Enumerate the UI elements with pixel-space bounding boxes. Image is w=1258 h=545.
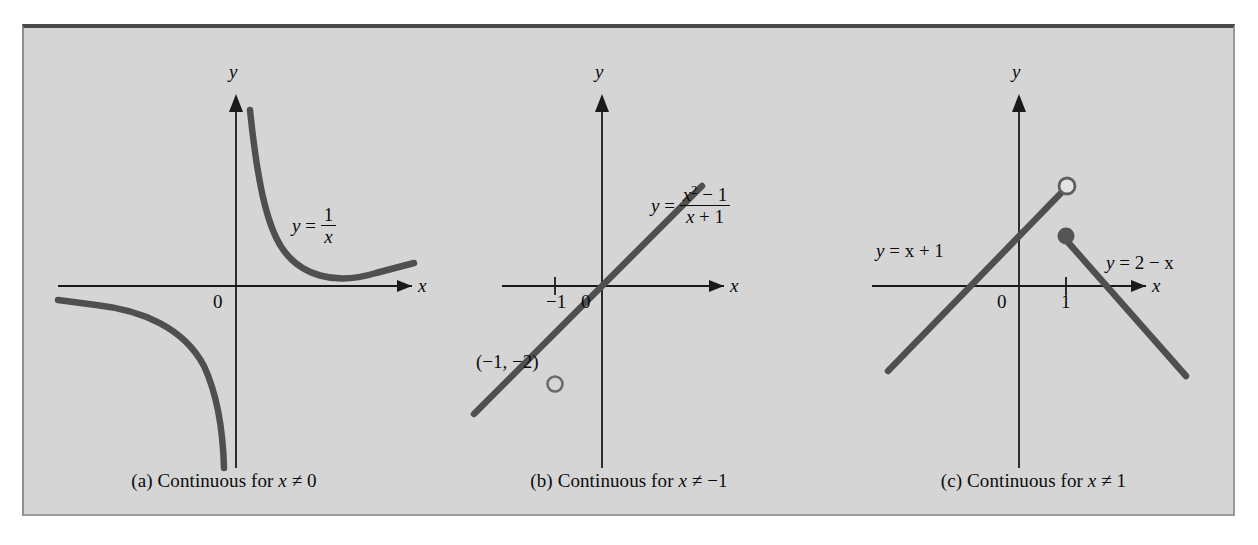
y-axis-label-b: y bbox=[595, 62, 603, 81]
x-axis-b bbox=[502, 280, 724, 292]
function-eq-a: = bbox=[300, 215, 320, 236]
tick-label-minus1-b: −1 bbox=[546, 292, 566, 311]
function-label-a: y = 1x bbox=[292, 206, 336, 249]
function-denominator-b: x + 1 bbox=[680, 205, 731, 228]
tick-label-1-c: 1 bbox=[1061, 292, 1071, 311]
figure-frame: y x 0 y = 1x (a) Continuous for x ≠ 0 bbox=[22, 24, 1235, 516]
function-numerator-a: 1 bbox=[321, 205, 337, 225]
panel-a-graph bbox=[24, 28, 424, 520]
curve-hyperbola-upper bbox=[250, 110, 414, 278]
x-axis-a bbox=[58, 280, 412, 292]
figure-root: y x 0 y = 1x (a) Continuous for x ≠ 0 bbox=[0, 0, 1258, 545]
origin-label-b: 0 bbox=[581, 292, 591, 311]
open-point-b bbox=[548, 377, 563, 392]
function-left-rest-c: = x + 1 bbox=[884, 240, 943, 261]
function-label-b: y = x2 − 1x + 1 bbox=[651, 186, 730, 229]
panel-c: y x 0 1 y = x + 1 y = 2 − x (c) Continuo… bbox=[834, 28, 1233, 520]
function-fraction-a: 1x bbox=[321, 205, 337, 248]
hole-label-b: (−1, −2) bbox=[476, 352, 539, 371]
caption-c: (c) Continuous for x ≠ 1 bbox=[834, 470, 1233, 492]
function-label-right-c: y = 2 − x bbox=[1106, 253, 1174, 272]
caption-var-a: x bbox=[278, 470, 287, 491]
caption-rel-b: ≠ −1 bbox=[687, 470, 728, 491]
origin-label-c: 0 bbox=[997, 292, 1007, 311]
open-point-c bbox=[1059, 178, 1075, 194]
line-left-c bbox=[888, 191, 1063, 371]
function-denominator-a: x bbox=[321, 225, 337, 248]
origin-label-a: 0 bbox=[213, 292, 223, 311]
y-axis-a bbox=[229, 94, 243, 468]
panel-a: y x 0 y = 1x (a) Continuous for x ≠ 0 bbox=[24, 28, 424, 520]
x-axis-label-c: x bbox=[1152, 276, 1160, 295]
caption-prefix-c: (c) Continuous for bbox=[941, 470, 1088, 491]
caption-b: (b) Continuous for x ≠ −1 bbox=[424, 470, 834, 492]
function-den-rest-b: + 1 bbox=[694, 206, 724, 227]
curve-hyperbola-lower bbox=[58, 300, 224, 468]
function-num-base-b: x bbox=[683, 184, 691, 205]
caption-rel-c: ≠ 1 bbox=[1096, 470, 1126, 491]
caption-rel-a: ≠ 0 bbox=[287, 470, 317, 491]
panel-c-graph bbox=[834, 28, 1233, 520]
y-axis-label-a: y bbox=[229, 62, 237, 81]
caption-prefix-b: (b) Continuous for bbox=[530, 470, 678, 491]
panel-b: y x −1 0 (−1, −2) y = x2 − 1x + 1 (b) Co… bbox=[424, 28, 834, 520]
function-num-rest-b: − 1 bbox=[698, 184, 728, 205]
caption-a: (a) Continuous for x ≠ 0 bbox=[24, 470, 424, 492]
closed-point-c bbox=[1058, 228, 1075, 245]
function-numerator-b: x2 − 1 bbox=[680, 185, 731, 205]
function-fraction-b: x2 − 1x + 1 bbox=[680, 185, 731, 228]
y-axis-label-c: y bbox=[1012, 62, 1020, 81]
y-axis-c bbox=[1012, 94, 1026, 468]
function-eq-b: = bbox=[659, 195, 679, 216]
caption-var-b: x bbox=[678, 470, 687, 491]
caption-prefix-a: (a) Continuous for bbox=[131, 470, 278, 491]
function-label-left-c: y = x + 1 bbox=[876, 241, 944, 260]
x-axis-label-b: x bbox=[730, 276, 738, 295]
function-right-rest-c: = 2 − x bbox=[1114, 252, 1173, 273]
panel-b-graph bbox=[424, 28, 834, 520]
